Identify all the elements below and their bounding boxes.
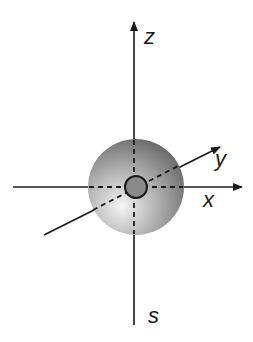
z-axis-label: z bbox=[143, 24, 155, 49]
y-axis-label: y bbox=[213, 146, 228, 171]
diagram-canvas: z x y s bbox=[0, 0, 253, 342]
x-axis-label: x bbox=[202, 187, 215, 212]
s-label: s bbox=[148, 303, 159, 328]
inner-circle bbox=[125, 176, 147, 198]
